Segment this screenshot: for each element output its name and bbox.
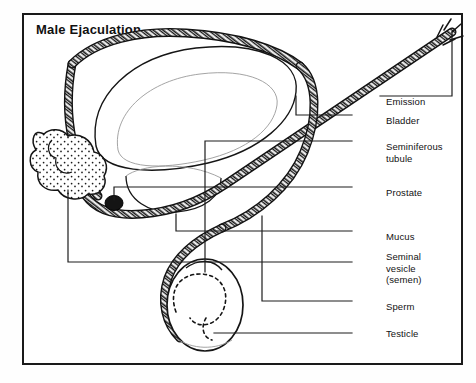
label-sperm: Sperm: [386, 301, 414, 313]
diagram-figure: Male Ejaculation: [0, 0, 476, 383]
label-seminiferous-tubule: Seminiferous tubule: [386, 141, 443, 164]
label-bladder: Bladder: [386, 115, 419, 127]
leader-sperm: [262, 216, 352, 301]
leader-seminiferous: [205, 141, 352, 272]
leader-prostate: [114, 187, 352, 200]
label-testicle: Testicle: [386, 328, 418, 340]
label-prostate: Prostate: [386, 187, 422, 199]
testicle-body: [167, 259, 243, 351]
label-mucus: Mucus: [386, 231, 414, 243]
leader-mucus: [176, 214, 352, 231]
label-emission: Emission: [386, 96, 425, 108]
label-seminal-vesicle: Seminal vesicle (semen): [386, 251, 422, 286]
